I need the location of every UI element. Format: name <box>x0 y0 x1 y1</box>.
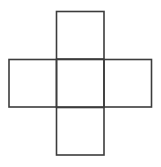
background <box>0 0 161 167</box>
cube-net-diagram <box>0 0 161 167</box>
